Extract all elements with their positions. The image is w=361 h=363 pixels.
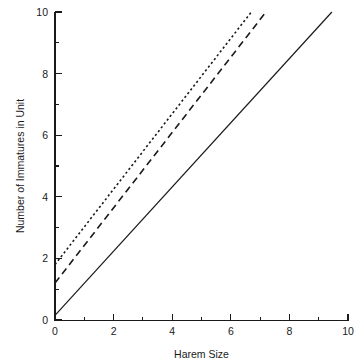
y-tick-major <box>55 196 62 197</box>
y-tick-label: 8 <box>22 68 48 79</box>
y-axis-title: Number of Immatures in Unit <box>14 99 26 233</box>
y-tick-major <box>55 11 62 12</box>
y-tick-label: 10 <box>22 7 48 18</box>
x-tick-minor <box>260 317 261 321</box>
x-tick-label: 6 <box>228 326 234 337</box>
y-tick-minor <box>55 289 59 290</box>
x-tick-minor <box>318 317 319 321</box>
x-tick-label: 4 <box>169 326 175 337</box>
y-tick-major <box>55 135 62 136</box>
x-tick-label: 8 <box>286 326 292 337</box>
y-tick-major <box>55 319 62 320</box>
y-tick-minor <box>55 227 59 228</box>
figure-chart: 0246810 0246810 Harem Size Number of Imm… <box>0 0 361 363</box>
y-tick-minor <box>55 42 59 43</box>
y-tick-label: 2 <box>22 253 48 264</box>
x-axis-title: Harem Size <box>55 348 348 360</box>
x-tick-major <box>289 314 290 321</box>
x-tick-minor <box>201 317 202 321</box>
x-tick-major <box>172 314 173 321</box>
series-solid <box>55 12 332 315</box>
y-tick-minor <box>55 165 59 166</box>
x-tick-major <box>347 314 348 321</box>
y-tick-label: 0 <box>22 315 48 326</box>
y-tick-major <box>55 258 62 259</box>
series-dashed <box>55 12 266 283</box>
x-tick-major <box>230 314 231 321</box>
x-tick-label: 10 <box>342 326 354 337</box>
x-tick-label: 2 <box>111 326 117 337</box>
x-tick-minor <box>142 317 143 321</box>
x-tick-minor <box>84 317 85 321</box>
x-tick-major <box>113 314 114 321</box>
series-dotted <box>55 12 251 265</box>
x-tick-label: 0 <box>52 326 58 337</box>
y-tick-minor <box>55 104 59 105</box>
y-tick-major <box>55 73 62 74</box>
